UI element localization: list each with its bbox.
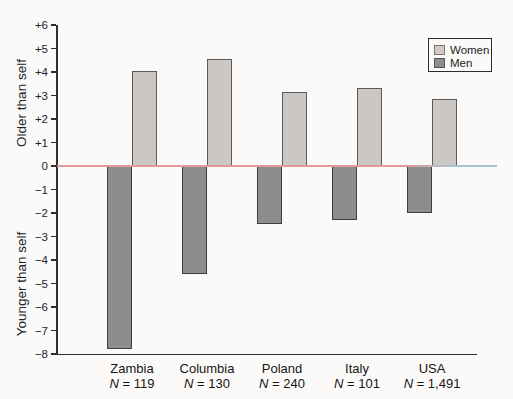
category-label-usa: USAN = 1,491	[382, 361, 482, 391]
y-tick-label: −1	[12, 183, 48, 197]
y-tick-label: −5	[12, 277, 48, 291]
y-axis-tick	[51, 95, 56, 96]
y-tick-label: −3	[12, 230, 48, 244]
sample-size: N = 1,491	[382, 376, 482, 391]
y-tick-label: −4	[12, 253, 48, 267]
y-tick-label: −6	[12, 300, 48, 314]
y-axis-tick	[51, 48, 56, 49]
y-tick-label: +3	[12, 89, 48, 103]
x-axis-line	[56, 354, 477, 356]
legend-label-men: Men	[450, 57, 472, 69]
y-axis-tick	[51, 189, 56, 190]
bar-men-poland	[257, 165, 282, 224]
y-axis-tick	[51, 71, 56, 72]
bar-women-italy	[357, 88, 382, 166]
y-axis-tick	[51, 259, 56, 260]
bar-men-usa	[407, 165, 432, 213]
legend-item-men: Men	[434, 56, 491, 69]
bar-women-poland	[282, 92, 307, 166]
country-name: USA	[382, 361, 482, 376]
men-swatch-icon	[434, 58, 445, 68]
y-axis-tick	[51, 353, 56, 354]
age-preference-bar-chart: Older than self Younger than self +6+5+4…	[0, 0, 513, 399]
zero-baseline	[57, 165, 497, 167]
y-tick-label: +5	[12, 42, 48, 56]
bar-men-zambia	[107, 165, 132, 349]
y-axis-tick	[51, 142, 56, 143]
y-axis-line	[56, 25, 58, 355]
y-tick-label: −7	[12, 324, 48, 338]
legend-item-women: Women	[434, 43, 491, 56]
y-axis-tick	[51, 24, 56, 25]
y-axis-tick	[51, 306, 56, 307]
y-tick-label: +2	[12, 112, 48, 126]
bar-men-columbia	[182, 165, 207, 274]
legend-label-women: Women	[450, 44, 489, 56]
y-tick-label: −2	[12, 206, 48, 220]
y-axis-tick	[51, 283, 56, 284]
y-axis-tick	[51, 165, 56, 166]
y-axis-tick	[51, 236, 56, 237]
y-axis-tick	[51, 212, 56, 213]
y-tick-label: +6	[12, 18, 48, 32]
women-swatch-icon	[434, 45, 445, 55]
y-tick-label: −8	[12, 347, 48, 361]
y-tick-label: +4	[12, 65, 48, 79]
bar-men-italy	[332, 165, 357, 220]
y-axis-tick	[51, 330, 56, 331]
bar-women-usa	[432, 99, 457, 166]
bar-women-columbia	[207, 59, 232, 166]
y-axis-tick	[51, 118, 56, 119]
bar-women-zambia	[132, 71, 157, 166]
legend: Women Men	[428, 38, 492, 72]
y-tick-label: 0	[12, 159, 48, 173]
y-tick-label: +1	[12, 136, 48, 150]
